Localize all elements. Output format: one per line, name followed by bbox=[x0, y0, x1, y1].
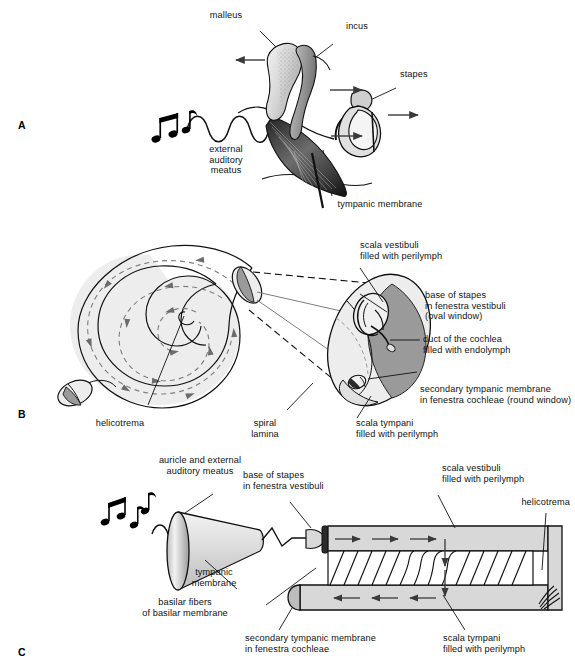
label-helicotrema-c: helicotrema bbox=[521, 497, 570, 508]
scala-vestibuli-channel bbox=[328, 526, 548, 551]
label-secondary-tympanic-membrane-c: secondary tympanic membrane in fenestra … bbox=[245, 633, 376, 654]
label-scala-tympani-b: scala tympani filled with perilymph bbox=[356, 418, 438, 439]
leader-scala-vestibuli-c bbox=[438, 495, 455, 528]
panel-letter-a: A bbox=[18, 119, 26, 131]
label-tympanic-membrane-c: tympanic membrane bbox=[192, 567, 237, 588]
label-auricle-and-meatus: auricle and external auditory meatus bbox=[159, 455, 241, 476]
panel-letter-c: C bbox=[18, 646, 26, 658]
panel-b-graphic bbox=[54, 245, 449, 421]
sound-wave-a bbox=[187, 116, 268, 142]
panel-letter-b: B bbox=[18, 408, 26, 420]
label-base-of-stapes-c: base of stapes in fenestra vestibuli bbox=[243, 470, 324, 491]
label-scala-tympani-c: scala tympani filled with perilymph bbox=[443, 633, 525, 654]
secondary-tympanic-membrane-c bbox=[288, 585, 300, 610]
label-helicotrema-b: helicotrema bbox=[96, 418, 145, 429]
label-external-auditory-meatus: external auditory meatus bbox=[209, 144, 243, 176]
music-notes-a bbox=[151, 110, 197, 143]
label-spiral-lamina: spiral lamina bbox=[251, 418, 279, 439]
label-base-of-stapes-b: base of stapes in fenestra vestibuli (ov… bbox=[425, 290, 506, 322]
leader-secondary-tm-c bbox=[279, 608, 292, 630]
panel-a-motion-arrows bbox=[236, 60, 418, 136]
ear-anatomy-figure: A B C malleus incus stapes external audi… bbox=[0, 0, 575, 672]
label-scala-vestibuli-b: scala vestibuli filled with perilymph bbox=[360, 240, 442, 261]
label-secondary-tympanic-membrane-b: secondary tympanic membrane in fenestra … bbox=[420, 384, 571, 405]
leader-base-of-stapes-c bbox=[290, 502, 311, 528]
stapes-bone bbox=[336, 90, 381, 157]
helicotrema-turn bbox=[548, 526, 562, 610]
leader-spiral-lamina bbox=[287, 383, 313, 410]
label-malleus: malleus bbox=[210, 10, 242, 21]
tympanic-membrane-shape bbox=[266, 117, 346, 208]
label-basilar-fibers: basilar fibers of basilar membrane bbox=[142, 597, 228, 618]
cochlea-spiral bbox=[70, 245, 252, 408]
uncoiled-cochlea-tube bbox=[288, 526, 562, 610]
tympanic-membrane-ellipse-c bbox=[167, 512, 189, 590]
leader-auricle-meatus bbox=[185, 494, 213, 513]
music-notes-c bbox=[100, 492, 156, 529]
stapes-footplate-c bbox=[306, 526, 328, 553]
label-stapes: stapes bbox=[400, 69, 428, 80]
label-incus: incus bbox=[346, 21, 368, 32]
label-duct-of-cochlea: duct of the cochlea filled with endolymp… bbox=[423, 334, 510, 355]
ossicular-chain-c bbox=[262, 528, 308, 546]
panel-a-graphic bbox=[151, 31, 418, 208]
label-scala-vestibuli-c: scala vestibuli filled with perilymph bbox=[442, 463, 524, 484]
label-tympanic-membrane-a: tympanic membrane bbox=[338, 199, 423, 210]
